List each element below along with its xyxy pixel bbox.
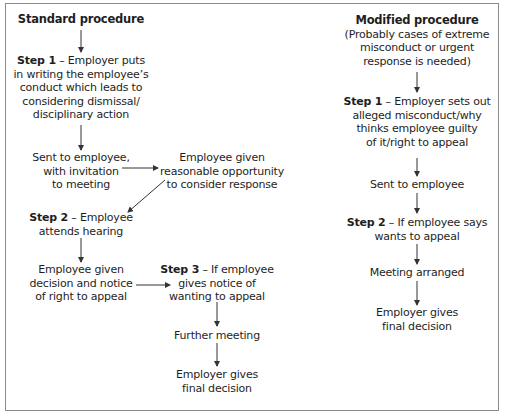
modified-step2: Step 2 – If employee says wants to appea…	[347, 216, 488, 243]
step-label: Step 1	[343, 95, 382, 108]
step-label: Step 3	[160, 263, 199, 276]
modified-procedure-title: Modified procedure	[345, 14, 490, 28]
modified-final-decision: Employer gives final decision	[376, 306, 458, 333]
standard-sent-to-employee: Sent to employee, with invitation to mee…	[32, 151, 129, 192]
step-label: Step 1	[17, 54, 56, 67]
modified-step1: Step 1 – Employer sets out alleged misco…	[343, 95, 490, 149]
step-label: Step 2	[29, 211, 68, 224]
step-label: Step 2	[347, 216, 386, 229]
standard-step1: Step 1 – Employer puts in writing the em…	[14, 54, 149, 122]
standard-step3: Step 3 – If employee gives notice of wan…	[160, 263, 273, 304]
standard-decision-notice: Employee given decision and notice of ri…	[29, 263, 132, 304]
standard-further-meeting: Further meeting	[174, 329, 260, 343]
standard-reasonable-opportunity: Employee given reasonable opportunity to…	[160, 151, 284, 192]
standard-step2: Step 2 – Employee attends hearing	[29, 211, 133, 238]
standard-procedure-title: Standard procedure	[18, 13, 144, 27]
modified-procedure-header: Modified procedure (Probably cases of ex…	[345, 14, 490, 68]
modified-sent-to-employee: Sent to employee	[370, 178, 464, 192]
standard-final-decision: Employer gives final decision	[176, 368, 258, 395]
modified-meeting-arranged: Meeting arranged	[370, 266, 465, 280]
